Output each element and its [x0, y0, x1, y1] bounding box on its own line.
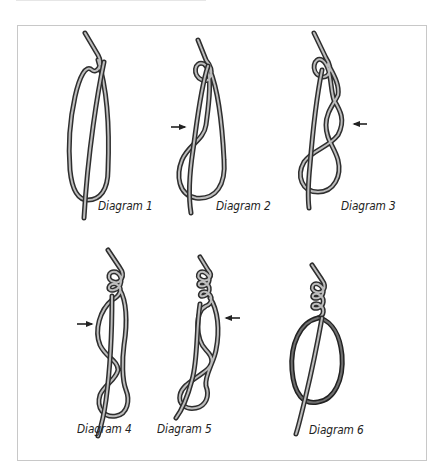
diagram-2-knot-illustration	[171, 40, 224, 213]
diagram-5-label: Diagram 5	[157, 422, 212, 436]
diagram-3-label: Diagram 3	[341, 199, 396, 213]
diagram-5-knot-illustration	[176, 257, 240, 418]
diagram-4-knot-illustration	[77, 250, 128, 436]
diagram-2-label: Diagram 2	[216, 199, 271, 213]
knot-diagrams-artwork	[0, 0, 447, 474]
diagram-1-knot-illustration	[69, 33, 108, 218]
diagram-6-label: Diagram 6	[309, 423, 364, 437]
diagram-4-label: Diagram 4	[77, 422, 132, 436]
diagram-6-knot-illustration	[292, 265, 343, 434]
diagram-1-label: Diagram 1	[98, 199, 153, 213]
diagram-3-knot-illustration	[300, 33, 367, 208]
